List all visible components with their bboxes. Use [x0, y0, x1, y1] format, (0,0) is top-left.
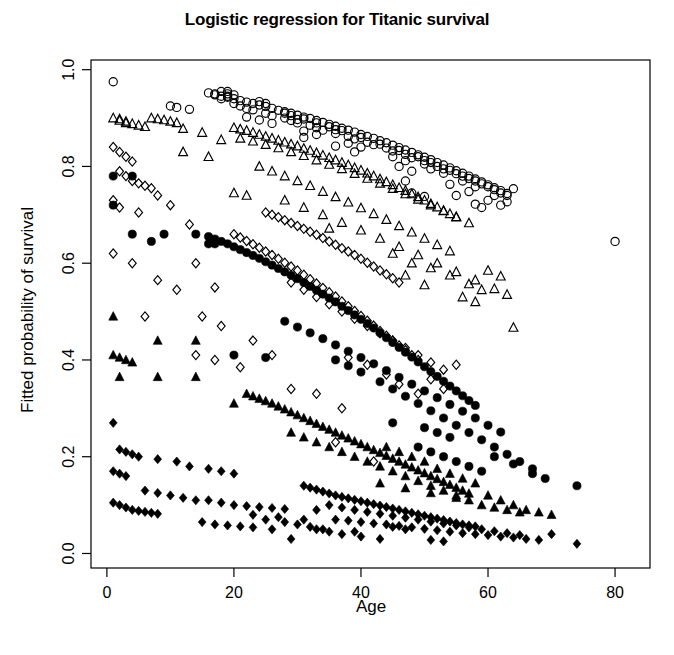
- data-point: [115, 372, 124, 381]
- data-point: [420, 280, 429, 289]
- data-point: [198, 128, 207, 137]
- data-point: [490, 453, 498, 461]
- data-point: [287, 428, 296, 437]
- data-point: [249, 336, 257, 345]
- data-point: [573, 482, 581, 490]
- data-point: [611, 237, 619, 245]
- data-point: [128, 259, 136, 268]
- data-point: [191, 372, 200, 381]
- data-point: [490, 284, 499, 293]
- data-point: [478, 467, 486, 475]
- data-point: [192, 230, 200, 238]
- data-point: [547, 510, 556, 519]
- data-point: [338, 404, 346, 413]
- data-point: [230, 351, 238, 359]
- data-point: [325, 501, 333, 510]
- y-tick-label: 0.2: [60, 446, 77, 468]
- data-point: [382, 367, 390, 375]
- data-point: [497, 201, 505, 209]
- data-point: [192, 496, 200, 505]
- data-point: [331, 341, 339, 349]
- data-point: [503, 198, 511, 206]
- data-point: [458, 292, 467, 301]
- data-point: [192, 259, 200, 268]
- data-point: [344, 197, 353, 206]
- data-point: [173, 285, 181, 294]
- data-point: [166, 491, 174, 500]
- data-point: [414, 399, 422, 407]
- data-point: [299, 433, 308, 442]
- data-point: [224, 521, 232, 530]
- data-point: [280, 196, 289, 205]
- data-point: [445, 246, 454, 255]
- data-point: [191, 336, 200, 345]
- data-point: [325, 224, 334, 233]
- data-point: [211, 283, 219, 292]
- data-point: [452, 267, 461, 276]
- data-point: [211, 520, 219, 529]
- data-point: [465, 462, 473, 470]
- data-point: [357, 226, 366, 235]
- data-point: [446, 180, 454, 188]
- data-point: [229, 188, 238, 197]
- data-point: [465, 428, 473, 436]
- data-point: [484, 196, 492, 204]
- data-point: [179, 493, 187, 502]
- data-point: [268, 166, 277, 175]
- data-point: [420, 424, 428, 432]
- data-point: [471, 275, 480, 284]
- data-point: [471, 297, 480, 306]
- data-point: [205, 464, 213, 473]
- data-point: [407, 227, 416, 236]
- data-point: [312, 437, 321, 446]
- data-point: [281, 517, 289, 526]
- data-point: [344, 494, 352, 503]
- data-point: [205, 496, 213, 505]
- data-point: [337, 447, 346, 456]
- data-point: [109, 418, 117, 427]
- data-point: [249, 510, 257, 519]
- data-point: [351, 505, 359, 514]
- data-point: [522, 505, 531, 514]
- data-point: [351, 495, 359, 504]
- data-point: [370, 519, 378, 528]
- data-point: [452, 360, 460, 369]
- data-point: [281, 317, 289, 325]
- data-point: [433, 394, 441, 402]
- data-point: [445, 270, 454, 279]
- data-point: [293, 323, 301, 331]
- data-point: [382, 502, 390, 511]
- data-point: [376, 509, 384, 518]
- data-point: [484, 266, 493, 275]
- data-point: [344, 362, 352, 370]
- data-point: [414, 250, 423, 259]
- data-point: [389, 419, 397, 427]
- data-point: [427, 535, 435, 544]
- data-point: [230, 469, 238, 478]
- y-tick-label: 0.6: [60, 252, 77, 274]
- data-point: [255, 162, 264, 171]
- chart-figure: Logistic regression for Titanic survival…: [0, 0, 674, 655]
- data-point: [389, 385, 397, 393]
- data-point: [420, 234, 429, 243]
- data-point: [401, 471, 410, 480]
- data-point: [401, 392, 409, 400]
- data-point: [294, 520, 302, 529]
- data-point: [433, 428, 441, 436]
- data-point: [445, 469, 454, 478]
- data-point: [395, 505, 403, 514]
- data-point: [160, 230, 168, 238]
- data-point: [388, 466, 397, 475]
- data-point: [147, 508, 155, 517]
- data-point: [440, 365, 448, 374]
- data-point: [471, 479, 480, 488]
- data-point: [471, 530, 479, 539]
- data-point: [496, 271, 505, 280]
- data-point: [147, 237, 155, 245]
- data-point: [382, 442, 391, 451]
- data-point: [109, 312, 118, 321]
- data-point: [344, 347, 352, 355]
- data-point: [300, 515, 308, 524]
- data-point: [414, 476, 423, 485]
- data-point: [376, 479, 385, 488]
